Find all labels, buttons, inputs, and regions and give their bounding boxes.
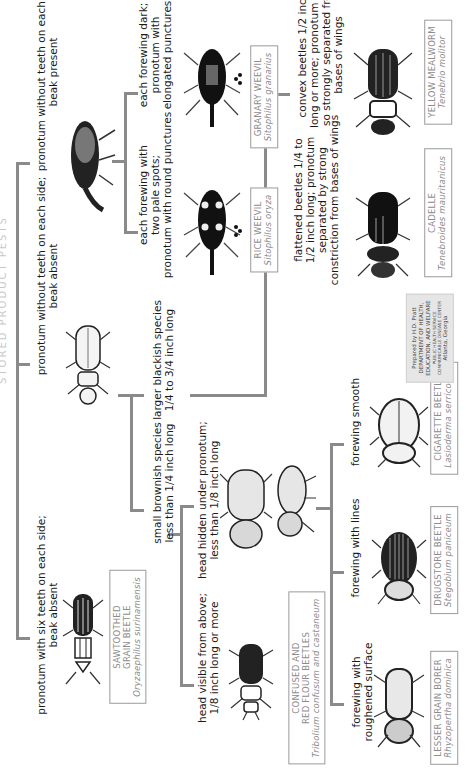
page-title-fragment: STORED PRODUCT PESTS <box>0 216 9 384</box>
credit-box: Prepared by H.D. Pratt DEPARTMENT OF HEA… <box>406 293 454 382</box>
drugstore-beetle-illustration <box>368 528 430 608</box>
weevil-spine <box>124 92 127 234</box>
cadelle-illustration <box>350 188 416 288</box>
blackish-stem <box>190 394 266 397</box>
label-rice-weevil: RICE WEEVIL Sitophilus oryza <box>250 188 278 273</box>
step-small-brownish: small brownish species less than 1/4 inc… <box>151 422 175 543</box>
branch-beak-present <box>16 162 30 165</box>
step-lines: forewing with lines <box>349 499 361 598</box>
label-cadelle: CADELLE Tenebroides mauritanicus <box>424 149 452 278</box>
sawtoothed-grain-beetle-illustration <box>58 590 108 690</box>
branch-smooth <box>330 443 344 446</box>
rice-weevil-illustration <box>178 185 246 285</box>
step-flattened: flattened beetles 1/4 to 1/2 inch long; … <box>292 115 340 285</box>
label-granary-weevil: GRANARY WEEVIL Sitophilus granarius <box>250 46 278 149</box>
step-head-hidden: head hidden under pronotum; less than 1/… <box>196 421 220 579</box>
branch-roughened <box>330 703 344 706</box>
branch-two-spots <box>124 231 138 234</box>
yellow-mealworm-illustration <box>348 45 418 145</box>
label-flour-beetles: CONFUSED AND RED FLOUR BEETLES Tribolium… <box>288 592 325 765</box>
branch-head-hidden <box>180 505 194 508</box>
step-larger-blackish: larger blackish species 1/4 to 3/4 inch … <box>151 300 175 420</box>
branch-head-visible <box>180 684 194 687</box>
head-hidden-beetle-illustration <box>220 462 320 557</box>
beak-absent-beetle-illustration <box>62 322 114 412</box>
lesser-grain-borer-illustration <box>368 665 430 755</box>
branch-forewing-dark <box>124 92 138 95</box>
label-sawtoothed-grain-beetle: SAWTOOTHED GRAIN BEETLE Oryzaephilus sur… <box>109 570 146 704</box>
step-head-visible: head visible from above; 1/8 inch long o… <box>196 593 220 723</box>
step-smooth: forewing smooth <box>349 378 361 466</box>
cigarette-beetle-illustration <box>368 395 430 470</box>
step-two-pale-spots: each forewing with two pale spots; prono… <box>137 112 173 279</box>
label-drugstore-beetle: DRUGSTORE BEETLE Stegobium paniceum <box>430 506 458 614</box>
step-convex: convex beetles 1/2 inch long or more; pr… <box>296 0 344 128</box>
label-yellow-mealworm: YELLOW MEALWORM Tenebrio molitor <box>424 19 452 124</box>
size-spine <box>130 394 133 512</box>
brownish-spine <box>180 505 183 687</box>
branch-larger-blackish <box>130 394 144 397</box>
weevil-side-view-illustration <box>55 110 120 220</box>
branch-beak-absent <box>16 363 30 366</box>
hidden-spine <box>330 443 333 705</box>
confused-flour-beetle-illustration <box>225 640 277 725</box>
branch-six-teeth <box>16 637 30 640</box>
label-lesser-grain-borer: LESSER GRAIN BORER Rhyzopertha dominica <box>430 651 458 765</box>
granary-weevil-illustration <box>178 45 246 140</box>
step-six-teeth: pronotum with six teeth on each side; be… <box>35 515 59 714</box>
key-root-line <box>16 162 19 640</box>
branch-lines <box>330 571 344 574</box>
step-forewing-dark: each forewing dark; pronotum with elonga… <box>137 1 173 110</box>
branch-small-brownish <box>130 509 144 512</box>
